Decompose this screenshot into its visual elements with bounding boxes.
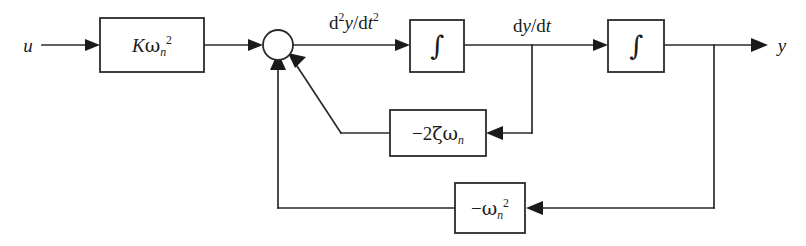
arrowhead-into-sum-diagonal xyxy=(288,53,306,68)
integral-icon-1: ∫ xyxy=(430,32,444,59)
damping-omega-symbol: ω xyxy=(443,122,459,144)
arrowhead-into-damping-block xyxy=(486,126,503,140)
output-signal-label: y xyxy=(778,36,786,55)
input-signal-label: u xyxy=(23,36,33,55)
dy-d-denominator: d xyxy=(536,15,546,36)
stiffness-omega-subscript-n: n xyxy=(497,209,503,222)
integral-icon-2: ∫ xyxy=(629,32,643,59)
summing-junction[interactable] xyxy=(263,30,293,60)
first-derivative-signal-label: dy/dt xyxy=(513,16,551,35)
damping-minus-sign: − xyxy=(412,123,423,144)
block-diagram-canvas: u Kωn2 d2y/dt2 ∫ dy/dt ∫ y −2ζωn −ωn2 xyxy=(0,0,806,246)
dy-denominator-variable-t: t xyxy=(546,15,551,36)
wire-damping-diagonal-to-sum xyxy=(293,60,341,133)
stiffness-minus-sign: − xyxy=(471,198,482,219)
d-numerator: d xyxy=(329,12,339,33)
arrowhead-output-y xyxy=(751,38,768,52)
stiffness-omega-symbol: ω xyxy=(482,197,498,219)
stiffness-feedback-block-label: −ωn2 xyxy=(471,199,509,218)
damping-omega-subscript-n: n xyxy=(458,134,464,147)
omega-superscript-2: 2 xyxy=(166,34,172,47)
zeta-symbol: ζ xyxy=(432,122,442,144)
damping-feedback-block-label: −2ζωn xyxy=(412,124,464,143)
numerator-variable-y: y xyxy=(345,12,353,33)
forward-gain-block-label: Kωn2 xyxy=(132,36,172,55)
d-denominator: d xyxy=(358,12,368,33)
arrowhead-into-integrator-1 xyxy=(395,39,410,51)
damping-coefficient-2: 2 xyxy=(423,123,433,144)
gain-symbol-k: K xyxy=(132,35,145,56)
denominator-exponent: 2 xyxy=(373,11,379,24)
arrowhead-into-stiffness-block xyxy=(526,201,543,215)
arrowhead-into-integrator-2 xyxy=(593,39,608,51)
omega-symbol: ω xyxy=(145,34,161,56)
diagram-vector-layer xyxy=(0,0,806,246)
arrowhead-into-gain xyxy=(85,39,100,51)
dy-numerator-variable-y: y xyxy=(523,15,531,36)
arrowhead-into-sum-left xyxy=(248,39,263,51)
second-derivative-signal-label: d2y/dt2 xyxy=(329,13,379,32)
omega-subscript-n: n xyxy=(160,46,166,59)
dy-d-numerator: d xyxy=(513,15,523,36)
stiffness-omega-superscript-2: 2 xyxy=(503,197,509,210)
